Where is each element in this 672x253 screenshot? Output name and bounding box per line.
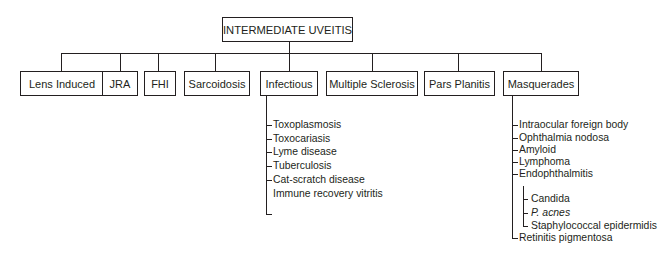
infectious-item: Toxoplasmosis — [273, 119, 341, 131]
infectious-tick — [266, 214, 272, 215]
masquerades-tick — [512, 162, 518, 163]
infectious-tick — [266, 180, 272, 181]
masquerades-item: Amyloid — [519, 144, 556, 156]
infectious-trunk — [266, 96, 267, 215]
drop-masquerades — [541, 53, 542, 71]
root-node: INTERMEDIATE UVEITIS — [222, 17, 353, 42]
node-label: Masquerades — [508, 78, 575, 90]
node-masquerades: Masquerades — [503, 71, 579, 96]
node-label: Infectious — [265, 78, 312, 90]
node-pars-planitis: Pars Planitis — [424, 71, 495, 96]
infectious-item: Lyme disease — [273, 146, 337, 158]
level1-bus — [61, 53, 542, 54]
masquerades-item: Lymphoma — [519, 156, 570, 168]
masquerades-tick — [512, 125, 518, 126]
masquerades-tick — [512, 174, 518, 175]
infectious-tick — [266, 152, 272, 153]
masquerades-item: Ophthalmia nodosa — [519, 132, 609, 144]
node-infectious: Infectious — [260, 71, 318, 96]
endophthalmitis-item: Candida — [531, 193, 570, 205]
drop-multiple-sclerosis — [372, 53, 373, 71]
drop-fhi — [158, 53, 159, 71]
drop-lens-induced — [61, 53, 62, 71]
infectious-item: Cat-scratch disease — [273, 174, 365, 186]
node-jra: JRA — [102, 71, 138, 96]
drop-pars-planitis — [458, 53, 459, 71]
node-label: FHI — [151, 78, 169, 90]
endophthalmitis-item: P. acnes — [531, 207, 570, 219]
infectious-tick — [266, 139, 272, 140]
masquerades-tick — [512, 138, 518, 139]
endophthalmitis-trunk — [523, 186, 524, 227]
masquerades-tick — [512, 150, 518, 151]
node-label: Pars Planitis — [429, 78, 490, 90]
infectious-item: Tuberculosis — [273, 160, 332, 172]
infectious-tick — [266, 166, 272, 167]
drop-jra — [120, 53, 121, 71]
masquerades-item: Intraocular foreign body — [519, 119, 628, 131]
node-label: Lens Induced — [29, 78, 95, 90]
node-label: Multiple Sclerosis — [329, 78, 415, 90]
node-fhi: FHI — [144, 71, 176, 96]
node-label: Sarcoidosis — [189, 78, 246, 90]
masquerades-last-item: Retinitis pigmentosa — [519, 232, 613, 244]
root-label: INTERMEDIATE UVEITIS — [223, 24, 352, 36]
infectious-tick — [266, 125, 272, 126]
masquerades-tick — [512, 238, 518, 239]
node-sarcoidosis: Sarcoidosis — [184, 71, 250, 96]
endophthalmitis-tick — [523, 226, 528, 227]
node-multiple-sclerosis: Multiple Sclerosis — [326, 71, 418, 96]
node-lens-induced: Lens Induced — [20, 71, 104, 96]
endophthalmitis-item: Staphylococcal epidermidis — [531, 220, 657, 232]
drop-infectious — [289, 53, 290, 71]
drop-sarcoidosis — [215, 53, 216, 71]
node-label: JRA — [110, 78, 131, 90]
masquerades-item: Endophthalmitis — [519, 168, 593, 180]
infectious-item: Immune recovery vitritis — [273, 188, 383, 200]
endophthalmitis-tick — [523, 213, 528, 214]
infectious-item: Toxocariasis — [273, 133, 330, 145]
masquerades-trunk — [512, 96, 513, 239]
endophthalmitis-tick — [523, 199, 528, 200]
